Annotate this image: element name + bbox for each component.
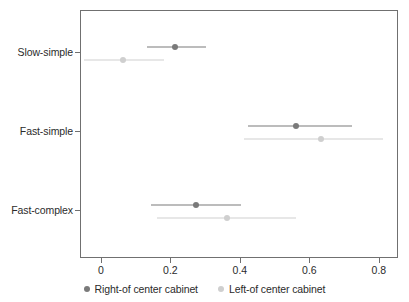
data-point-marker xyxy=(318,136,324,142)
x-tick-mark xyxy=(309,258,310,263)
x-tick-mark xyxy=(170,258,171,263)
x-tick-mark xyxy=(101,258,102,263)
y-tick-label-fast-simple: Fast-simple xyxy=(20,125,73,137)
data-point-marker xyxy=(224,215,230,221)
plot-area xyxy=(81,11,397,257)
legend-dot-left-of-center-icon xyxy=(218,286,224,292)
legend-entry-left-of-center: Left-of center cabinet xyxy=(218,283,325,295)
x-tick-label: 0.8 xyxy=(372,264,387,276)
legend-label-right-of-center: Right-of center cabinet xyxy=(95,283,198,295)
x-tick-mark xyxy=(240,258,241,263)
data-point-marker xyxy=(293,123,299,129)
data-point-marker xyxy=(172,44,178,50)
x-tick-label: 0.2 xyxy=(163,264,178,276)
chart-root: Slow-simple Fast-simple Fast-complex 00.… xyxy=(0,0,409,302)
legend-label-left-of-center: Left-of center cabinet xyxy=(229,283,325,295)
confidence-interval-line xyxy=(244,138,383,139)
legend-dot-right-of-center-icon xyxy=(84,286,90,292)
x-tick-label: 0.6 xyxy=(302,264,317,276)
data-point-marker xyxy=(193,202,199,208)
y-tick-label-fast-complex: Fast-complex xyxy=(11,204,73,216)
data-point-marker xyxy=(120,57,126,63)
legend-entry-right-of-center: Right-of center cabinet xyxy=(84,283,198,295)
y-tick-label-slow-simple: Slow-simple xyxy=(18,46,74,58)
chart-legend: Right-of center cabinet Left-of center c… xyxy=(0,283,409,295)
x-tick-label: 0.4 xyxy=(233,264,248,276)
confidence-interval-line xyxy=(248,125,352,126)
y-axis-labels: Slow-simple Fast-simple Fast-complex xyxy=(0,0,73,302)
x-tick-mark xyxy=(379,258,380,263)
x-tick-label: 0 xyxy=(98,264,104,276)
plot-frame xyxy=(80,10,398,258)
